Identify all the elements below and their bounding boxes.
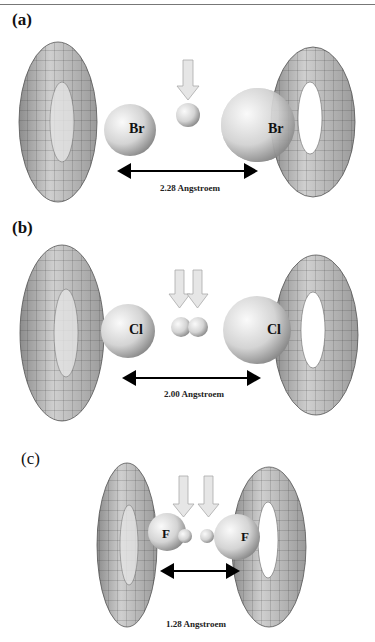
panel-label-a: (a) (12, 10, 32, 30)
arrow-down-icon (173, 476, 194, 517)
left-torus (19, 42, 97, 202)
center-sphere (200, 529, 214, 543)
left-torus (20, 245, 104, 421)
center-sphere (178, 529, 192, 543)
panel-label-c: (c) (21, 449, 40, 469)
atom-label: Br (129, 121, 145, 137)
arrow-down-icon (177, 60, 199, 100)
left-torus (97, 463, 157, 627)
arrow-down-icon (187, 270, 208, 308)
atom-label: Br (268, 121, 284, 137)
center-sphere (188, 317, 208, 337)
panel-a (19, 42, 355, 202)
panel-label-b: (b) (12, 218, 33, 238)
atom-label: F (162, 526, 170, 542)
right-atom-sphere (214, 514, 260, 560)
center-sphere (176, 103, 200, 127)
diagram-canvas (0, 0, 375, 642)
atom-label: Cl (129, 322, 143, 338)
left-atom-sphere (101, 304, 155, 358)
panel-c (97, 463, 306, 627)
distance-label: 1.28 Angstroem (116, 619, 276, 629)
arrow-down-icon (198, 476, 219, 517)
distance-label: 2.28 Angstroem (110, 183, 270, 193)
atom-label: F (241, 529, 249, 545)
distance-label: 2.00 Angstroem (114, 389, 274, 399)
atom-label: Cl (267, 322, 281, 338)
arrow-down-icon (169, 270, 190, 308)
